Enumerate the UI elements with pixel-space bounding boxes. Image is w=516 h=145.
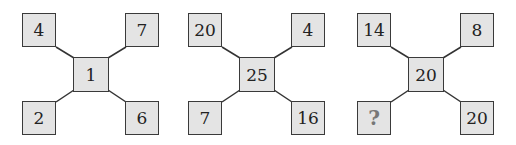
top-left-box: 20 (188, 13, 222, 47)
center-box: 20 (408, 57, 444, 92)
puzzle-group-2: 20 4 25 7 16 (188, 0, 358, 145)
center-box: 1 (73, 57, 109, 92)
bottom-right-box: 20 (460, 101, 494, 135)
bottom-left-box: 2 (22, 101, 56, 135)
center-box: 25 (239, 57, 275, 92)
top-right-box: 7 (125, 13, 159, 47)
puzzle-group-3: 14 8 20 ? 20 (357, 0, 516, 145)
bottom-right-box: 6 (125, 101, 159, 135)
top-right-box: 4 (291, 13, 325, 47)
bottom-right-box: 16 (291, 101, 325, 135)
top-left-box: 4 (22, 13, 56, 47)
bottom-left-box: 7 (188, 101, 222, 135)
top-right-box: 8 (460, 13, 494, 47)
unknown-answer-box: ? (357, 101, 391, 135)
top-left-box: 14 (357, 13, 391, 47)
puzzle-group-1: 4 7 1 2 6 (22, 0, 192, 145)
